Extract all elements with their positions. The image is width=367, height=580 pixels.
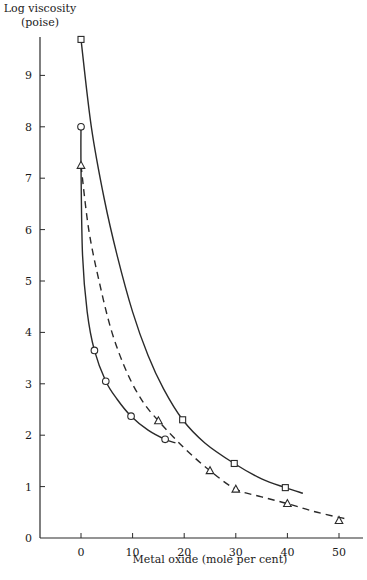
- plot-area: 012345678901020304050: [0, 0, 367, 580]
- y-tick-label: 7: [25, 172, 32, 185]
- curve-triangles: [81, 165, 348, 519]
- y-tick-label: 4: [25, 326, 32, 339]
- axes: 012345678901020304050: [25, 37, 363, 559]
- y-tick-label: 1: [25, 481, 32, 494]
- y-tick-label: 5: [25, 275, 32, 288]
- square-marker: [231, 460, 237, 466]
- curve-circles: [81, 127, 176, 443]
- x-axis-label: Metal oxide (mole per cent): [0, 553, 367, 566]
- circle-marker: [162, 436, 169, 443]
- y-tick-label: 2: [25, 429, 32, 442]
- triangle-marker: [232, 485, 240, 492]
- square-marker: [282, 485, 288, 491]
- y-axis-label-line2: (poise): [2, 16, 78, 30]
- y-tick-label: 8: [25, 121, 32, 134]
- chart: 012345678901020304050 Log viscosity (poi…: [0, 0, 367, 580]
- square-marker: [180, 417, 186, 423]
- circle-marker: [102, 378, 109, 385]
- y-tick-label: 6: [25, 224, 32, 237]
- y-tick-label: 9: [25, 69, 32, 82]
- y-axis-label: Log viscosity (poise): [2, 2, 78, 30]
- data-markers: [77, 36, 343, 523]
- circle-marker: [128, 413, 135, 420]
- triangle-marker: [77, 161, 85, 168]
- square-marker: [78, 36, 84, 42]
- circle-marker: [78, 124, 85, 131]
- y-tick-label: 3: [25, 378, 32, 391]
- curve-squares: [81, 39, 303, 493]
- circle-marker: [91, 347, 98, 354]
- curves: [81, 39, 348, 519]
- y-tick-label: 0: [25, 532, 32, 545]
- y-axis-label-line1: Log viscosity: [2, 2, 78, 16]
